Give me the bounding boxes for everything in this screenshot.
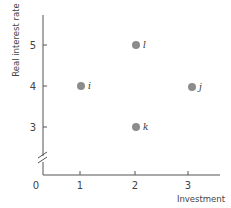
x-ticks — [80, 171, 188, 175]
x-axis-label: Investment — [177, 194, 226, 204]
origin-label: 0 — [33, 180, 39, 191]
data-point-i: i — [77, 81, 91, 91]
y-tick-label-3: 3 — [30, 122, 36, 133]
data-point-j: j — [188, 82, 202, 92]
data-point-k: k — [132, 122, 148, 132]
y-tick-label-4: 4 — [30, 81, 36, 92]
svg-text:l: l — [143, 40, 146, 50]
y-tick-label-5: 5 — [30, 40, 36, 51]
svg-text:k: k — [143, 122, 148, 132]
x-tick-label-3: 3 — [185, 180, 191, 191]
x-tick-label-1: 1 — [77, 180, 83, 191]
x-tick-label-2: 2 — [132, 180, 138, 191]
scatter-chart: 5 4 3 0 1 2 3 Investment Real interest r… — [0, 0, 231, 208]
svg-text:j: j — [197, 82, 202, 92]
data-point-l: l — [132, 40, 146, 50]
y-axis-label: Real interest rate — [11, 3, 21, 77]
svg-text:i: i — [88, 81, 91, 91]
y-ticks — [43, 45, 47, 127]
